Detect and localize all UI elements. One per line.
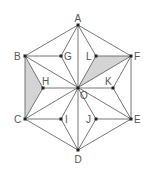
- label-l: L: [86, 51, 92, 62]
- label-g: G: [64, 51, 72, 62]
- point-d: [77, 149, 80, 152]
- point-e: [130, 118, 133, 121]
- point-f: [130, 55, 133, 58]
- point-c: [24, 118, 27, 121]
- point-b: [24, 55, 27, 58]
- point-g: [60, 55, 63, 58]
- point-l: [95, 55, 98, 58]
- label-e: E: [134, 114, 141, 125]
- label-f: F: [134, 51, 140, 62]
- label-o: O: [80, 90, 88, 101]
- label-i: I: [65, 114, 68, 125]
- label-k: K: [105, 76, 112, 87]
- point-i: [60, 118, 63, 121]
- point-k: [112, 87, 115, 90]
- label-h: H: [42, 76, 49, 87]
- point-j: [95, 118, 98, 121]
- hexagon-diagram: A B C D E F O G H I J K L: [0, 0, 154, 178]
- label-c: C: [14, 114, 21, 125]
- label-d: D: [75, 154, 82, 165]
- label-b: B: [14, 51, 21, 62]
- label-a: A: [75, 13, 82, 24]
- label-j: J: [86, 114, 91, 125]
